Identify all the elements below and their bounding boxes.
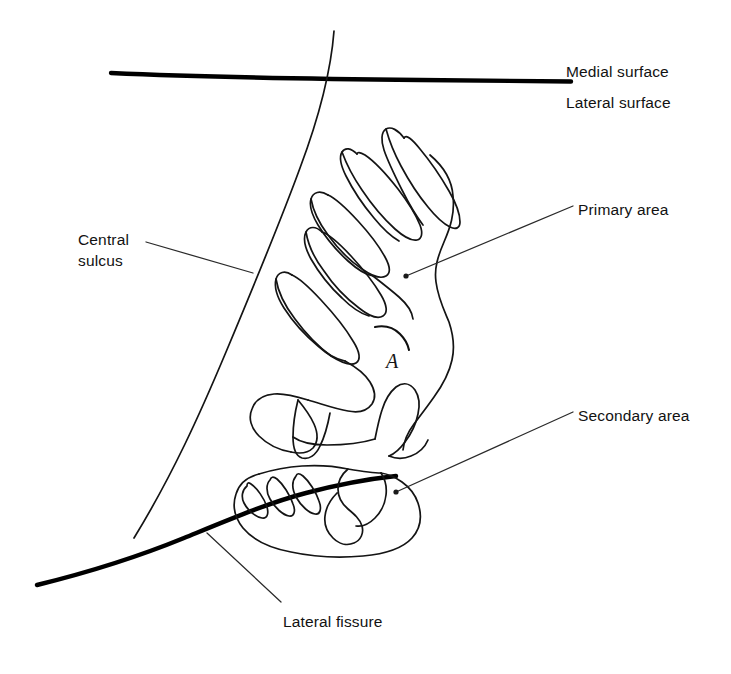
primary-area-left-lobe (291, 400, 317, 453)
gyrus-finger-3 (341, 149, 399, 241)
primary-area-leader-dot (403, 273, 408, 278)
central-sulcus-leader-line (146, 242, 253, 273)
primary-area-central-stem (373, 276, 413, 319)
label-lateral-surface: Lateral surface (566, 93, 671, 114)
primary-area-bottom-edge (293, 437, 375, 445)
gyrus-finger-8 (306, 232, 386, 317)
lateral-fissure-leader-line (207, 533, 281, 602)
lateral-fissure-line (37, 476, 396, 585)
primary-area-leader-line (406, 206, 573, 276)
label-lateral-fissure: Lateral fissure (283, 612, 383, 633)
label-primary-area: Primary area (578, 200, 669, 221)
label-medial-surface: Medial surface (566, 62, 669, 83)
secondary-area-leader-dot (393, 489, 398, 494)
gyrus-finger-6 (311, 195, 389, 277)
medial-lateral-boundary-line (111, 73, 571, 82)
gyrus-finger-10 (276, 275, 359, 364)
secondary-area-leader-line (396, 412, 573, 492)
secondary-gyrus-b (267, 477, 294, 516)
label-secondary-area: Secondary area (578, 406, 690, 427)
gyrus-finger-7 (305, 228, 369, 317)
cortical-fold-hook-upper (308, 361, 374, 412)
label-annotation-letter-a: A (386, 350, 398, 373)
annotation-arc-over-a (375, 326, 409, 350)
central-sulcus-line (134, 31, 334, 538)
primary-area-right-inner-fold (375, 384, 419, 456)
figure-root: Medial surface Lateral surface Primary a… (0, 0, 731, 674)
primary-area-outer-right-edge (403, 155, 453, 450)
primary-area-bottom-right-edge (389, 440, 428, 458)
label-central-sulcus: Central sulcus (78, 230, 129, 272)
secondary-area-upper-rim (259, 466, 381, 474)
